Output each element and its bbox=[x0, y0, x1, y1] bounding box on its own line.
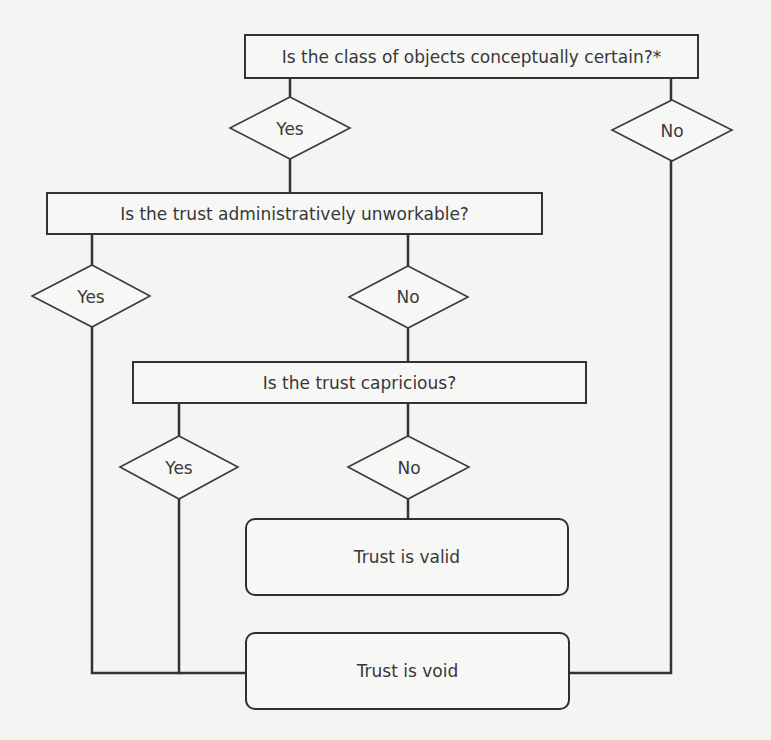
flowchart-canvas: Is the class of objects conceptually cer… bbox=[0, 0, 771, 740]
question-box-class-certain: Is the class of objects conceptually cer… bbox=[244, 34, 699, 79]
question-label-administratively-unworkable: Is the trust administratively unworkable… bbox=[120, 204, 469, 224]
question-box-administratively-unworkable: Is the trust administratively unworkable… bbox=[46, 192, 543, 235]
answer-label-q1-no: No bbox=[660, 121, 683, 141]
outcome-box-trust-valid: Trust is valid bbox=[245, 518, 569, 596]
answer-label-q3-yes: Yes bbox=[165, 458, 192, 478]
answer-label-q3-no: No bbox=[397, 458, 420, 478]
answer-label-q2-no: No bbox=[396, 287, 419, 307]
outcome-label-trust-void: Trust is void bbox=[357, 661, 459, 681]
answer-label-q2-yes: Yes bbox=[77, 287, 104, 307]
answer-label-q1-yes: Yes bbox=[276, 119, 303, 139]
outcome-label-trust-valid: Trust is valid bbox=[354, 547, 460, 567]
question-label-capricious: Is the trust capricious? bbox=[263, 373, 456, 393]
outcome-box-trust-void: Trust is void bbox=[245, 632, 570, 710]
question-label-class-certain: Is the class of objects conceptually cer… bbox=[282, 47, 661, 67]
question-box-capricious: Is the trust capricious? bbox=[132, 361, 587, 404]
